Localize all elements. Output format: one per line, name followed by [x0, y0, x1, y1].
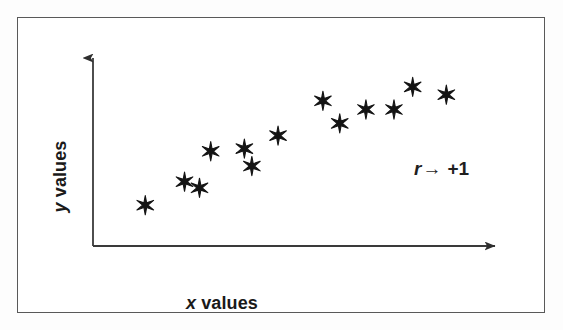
x-axis-label-text: values	[196, 293, 258, 313]
data-point-star-icon	[202, 142, 219, 161]
data-point-star-icon	[191, 178, 208, 197]
data-point-star-icon	[176, 172, 193, 191]
y-axis-label: y values	[50, 122, 71, 232]
data-point-star-icon	[438, 85, 455, 104]
data-point-star-icon	[331, 114, 348, 133]
figure-frame: x values y values r→+1	[17, 17, 545, 313]
y-axis-label-text: values	[50, 141, 70, 203]
data-point-star-icon	[236, 139, 253, 158]
data-point-star-icon	[404, 77, 421, 96]
correlation-annotation: r→+1	[414, 158, 469, 180]
data-point-star-icon	[244, 156, 261, 175]
data-point-star-icon	[270, 126, 287, 145]
x-axis-label-symbol: x	[186, 293, 196, 313]
data-point-star-icon	[358, 100, 375, 119]
data-point-star-icon	[315, 91, 332, 110]
data-points-group	[137, 77, 455, 215]
data-point-star-icon	[386, 100, 403, 119]
y-axis-label-symbol: y	[50, 202, 70, 212]
figure-container: x values y values r→+1	[0, 0, 563, 330]
arrow-right-icon: →	[421, 158, 442, 179]
axis-lines	[93, 58, 495, 246]
data-point-star-icon	[137, 196, 154, 215]
correlation-value: +1	[442, 158, 469, 179]
x-axis-label: x values	[186, 293, 258, 314]
